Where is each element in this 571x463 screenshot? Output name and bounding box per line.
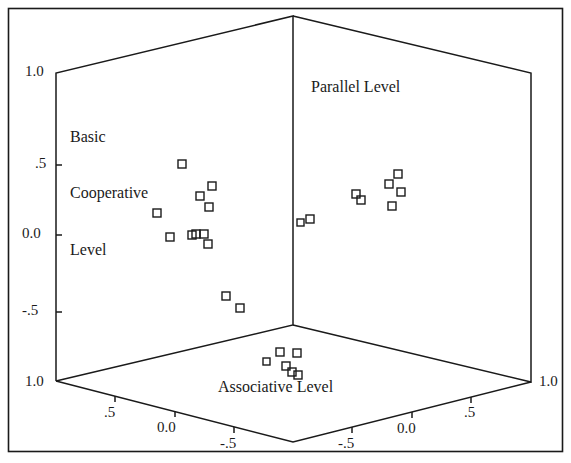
vaxis-tick-neg-0-5: -.5 <box>22 302 38 320</box>
figure-root: 1.0 .5 0.0 -.5 1.0 .5 0.0 -.5 -.5 0.0 .5… <box>0 0 571 463</box>
series-parallel-plane <box>297 170 405 226</box>
data-point <box>288 368 296 376</box>
floor-right-tick-0-5: .5 <box>464 404 475 422</box>
left-wall-title-line1: Basic <box>70 128 148 147</box>
floor-left-tick-0-5: .5 <box>104 404 115 422</box>
vaxis-tick-0-0: 0.0 <box>22 225 41 243</box>
floor-left-tick-0-0: 0.0 <box>157 419 176 437</box>
left-wall-title-line2: Cooperative <box>70 184 148 203</box>
right-wall <box>293 16 531 382</box>
vaxis-tick-1-0-bottom: 1.0 <box>25 373 44 391</box>
vaxis-tick-0-5: .5 <box>35 155 46 173</box>
data-point <box>282 362 290 370</box>
data-point <box>306 215 314 223</box>
data-point <box>293 349 301 357</box>
left-wall-title-line3: Level <box>70 241 148 260</box>
data-point <box>153 209 161 217</box>
data-point <box>385 180 393 188</box>
left-wall-title: Basic Cooperative Level <box>70 90 148 298</box>
right-axis-tick-1-0: 1.0 <box>539 373 558 391</box>
vertical-axis-ticks <box>56 165 62 312</box>
right-wall-outline <box>293 16 531 382</box>
right-wall-title: Parallel Level <box>311 78 400 97</box>
data-point <box>178 160 186 168</box>
floor-right-tick-neg-0-5: -.5 <box>338 435 354 453</box>
data-point <box>394 170 402 178</box>
data-point <box>397 188 405 196</box>
data-point <box>276 348 284 356</box>
data-point <box>166 233 174 241</box>
data-point <box>205 203 213 211</box>
data-point <box>196 192 204 200</box>
data-point <box>236 304 244 312</box>
floor-left-tick-neg-0-5: -.5 <box>220 435 236 453</box>
vaxis-tick-1-0-top: 1.0 <box>25 63 44 81</box>
data-point <box>297 219 304 226</box>
data-point <box>263 358 270 365</box>
data-point <box>352 190 360 198</box>
floor-axis-title: Associative Level <box>218 378 333 397</box>
data-markers <box>153 160 405 379</box>
data-point <box>357 196 365 204</box>
series-associative-plane <box>263 348 302 379</box>
series-basic-cooperative-plane <box>153 160 244 312</box>
data-point <box>204 240 212 248</box>
data-point <box>222 292 230 300</box>
data-point <box>388 202 396 210</box>
floor-right-tick-0-0: 0.0 <box>397 420 416 438</box>
data-point <box>208 182 216 190</box>
data-point <box>200 230 208 238</box>
